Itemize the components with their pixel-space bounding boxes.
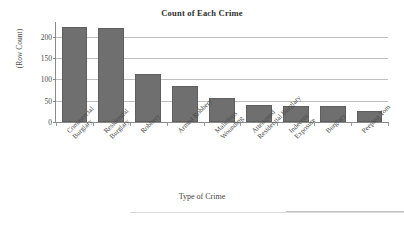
scan-artifact-rule-2: [286, 211, 404, 212]
chart-screenshot: Count of Each Crime 050100150200 (Row Co…: [0, 0, 404, 228]
scan-artifact-rule: [130, 212, 404, 213]
x-axis-category-labels: CommercialBurglaryResidentialBurglaryRob…: [0, 122, 404, 192]
plot-area: [56, 24, 388, 122]
y-axis-tick-label: 200: [28, 32, 52, 41]
y-axis-tick-label: 100: [28, 75, 52, 84]
y-axis-tick-label: 50: [28, 96, 52, 105]
bar: [62, 27, 88, 122]
y-axis-tick-labels: 050100150200: [26, 24, 52, 122]
chart-title: Count of Each Crime: [0, 8, 404, 18]
y-axis-title: (Row Count): [15, 14, 24, 84]
y-axis-tick-label: 150: [28, 54, 52, 63]
x-axis-title: Type of Crime: [0, 192, 404, 201]
bar: [98, 28, 124, 122]
